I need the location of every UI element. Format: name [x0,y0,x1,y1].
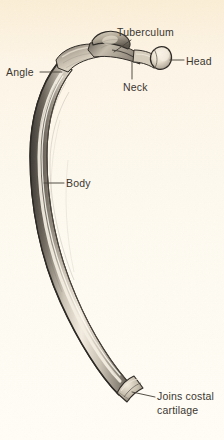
label-head: Head [186,55,212,69]
label-neck: Neck [123,81,148,95]
label-body: Body [66,177,91,191]
label-joins-line1: Joins costal [157,390,214,402]
label-joins-line2: cartilage [157,404,198,416]
leader-lines [40,40,184,397]
label-joins-costal-cartilage: Joins costal cartilage [157,390,221,417]
label-tuberculum: Tuberculum [117,26,174,40]
label-angle: Angle [6,66,34,80]
rib-anatomy-figure: Tuberculum Head Angle Neck Body Joins co… [0,0,224,440]
